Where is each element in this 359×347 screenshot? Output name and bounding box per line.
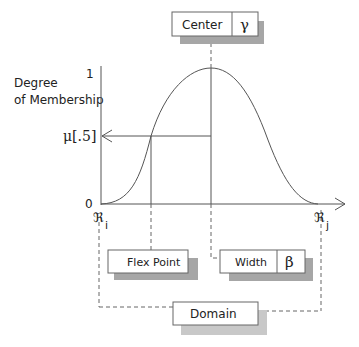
y-axis-label-line1: Degree	[14, 76, 58, 90]
membership-diagram: Degree of Membership 1 0 μ[.5] ℜ i ℜ j C…	[0, 0, 359, 347]
domain-box: Domain	[173, 302, 267, 335]
domain-label: Domain	[190, 307, 237, 321]
y-tick-one: 1	[86, 67, 94, 81]
center-to-width-dashed	[211, 204, 220, 258]
svg-text:i: i	[105, 219, 108, 232]
beta-symbol: β	[285, 253, 294, 271]
svg-text:ℜ: ℜ	[314, 210, 325, 225]
width-label: Width	[235, 256, 267, 269]
flex-point-box: Flex Point	[108, 250, 198, 280]
svg-text:j: j	[325, 219, 329, 232]
domain-left-label: ℜ i	[93, 210, 108, 232]
svg-text:ℜ: ℜ	[93, 210, 104, 225]
domain-right-label: ℜ j	[314, 210, 329, 232]
center-label: Center	[182, 18, 222, 32]
center-box: Center γ	[172, 12, 264, 44]
flex-point-label: Flex Point	[127, 256, 181, 269]
y-tick-mu-half: μ[.5]	[63, 128, 96, 144]
gamma-symbol: γ	[240, 16, 249, 34]
width-box: Width β	[220, 250, 313, 281]
y-axis-label-line2: of Membership	[14, 93, 104, 107]
y-tick-zero: 0	[85, 197, 93, 211]
